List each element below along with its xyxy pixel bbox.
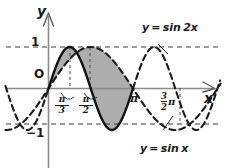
y-tick-label-one: 1 (31, 36, 39, 48)
curve-label-sin-2x: y = sin 2x (142, 22, 198, 33)
origin-label: O (34, 68, 44, 80)
pi-over-two-denominator: 2 (79, 106, 93, 115)
math-figure: y x O 1 −1 π 3 π 2 π 3 2 π y = sin 2x y … (0, 0, 226, 168)
pi-over-three-denominator: 3 (55, 106, 69, 115)
leader-line-sinx (163, 116, 173, 130)
x-axis-label: x (204, 91, 213, 105)
curve-label-sin-x: y = sin x (140, 143, 188, 154)
x-tick-label-pi-over-three: π 3 (55, 95, 69, 115)
y-axis-label: y (37, 4, 46, 18)
three-halves-pi-symbol: π (167, 97, 175, 107)
pi-over-two-numerator: π (79, 95, 93, 104)
y-tick-label-negative-one: −1 (26, 127, 44, 139)
curve-sin-2x-dashed-left (5, 86, 48, 130)
x-tick-label-pi: π (130, 93, 138, 104)
x-tick-label-three-halves-pi: 3 2 π (161, 92, 175, 111)
x-tick-label-pi-over-two: π 2 (79, 95, 93, 115)
pi-over-three-numerator: π (55, 95, 69, 104)
